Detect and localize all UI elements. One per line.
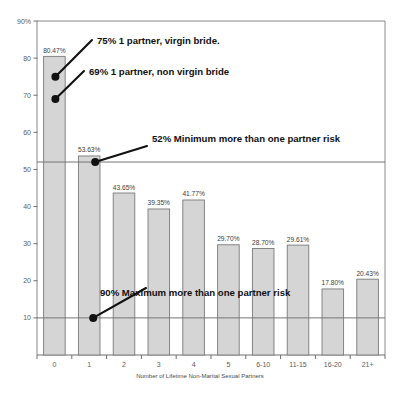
annotation-dot-virgin-bride-marker — [51, 73, 59, 81]
x-tick-label: 0 — [52, 361, 56, 368]
y-tick-label: 10 — [23, 314, 31, 321]
annotation-label-maximum-risk-marker: 90% Maximum more than one partner risk — [100, 287, 291, 298]
x-tick-label: 11-15 — [289, 361, 306, 368]
bar-value-label: 41.77% — [182, 190, 205, 197]
y-tick-label: 30 — [23, 240, 31, 247]
annotation-dot-minimum-risk-marker — [91, 158, 99, 166]
bar — [218, 245, 240, 355]
y-tick-label: 90% — [17, 18, 31, 25]
annotation-label-non-virgin-bride-marker: 69% 1 partner, non virgin bride — [89, 66, 229, 77]
bar-value-label: 20.43% — [356, 270, 379, 277]
y-tick-label: 80 — [23, 55, 31, 62]
y-tick-label: 70 — [23, 92, 31, 99]
bar — [252, 248, 274, 355]
annotation-dot-maximum-risk-marker — [89, 314, 97, 322]
x-tick-label: 6-10 — [256, 361, 270, 368]
bar — [78, 156, 100, 355]
bar-value-label: 43.65% — [113, 184, 136, 191]
bar-value-label: 53.63% — [78, 146, 101, 153]
annotation-label-virgin-bride-marker: 75% 1 partner, virgin bride. — [97, 35, 220, 46]
x-tick-label: 21+ — [362, 361, 374, 368]
bar-value-label: 39.35% — [148, 199, 171, 206]
bar-chart-figure: 90%8070605040302010 0123456-1011-1516-20… — [0, 0, 398, 394]
bar-value-label: 29.70% — [217, 235, 240, 242]
bar-value-label: 29.61% — [287, 236, 310, 243]
bar-value-label: 28.70% — [252, 239, 275, 246]
x-tick-label: 5 — [226, 361, 230, 368]
x-tick-label: 4 — [192, 361, 196, 368]
x-tick-label: 16-20 — [324, 361, 342, 368]
annotation-dot-non-virgin-bride-marker — [51, 95, 59, 103]
x-tick-label: 3 — [157, 361, 161, 368]
y-tick-label: 40 — [23, 203, 31, 210]
y-tick-label: 20 — [23, 277, 31, 284]
bar-value-label: 17.80% — [322, 279, 345, 286]
bar-value-label: 80.47% — [43, 47, 66, 54]
chart-canvas: 90%8070605040302010 0123456-1011-1516-20… — [0, 0, 398, 394]
annotation-label-minimum-risk-marker: 52% Minimum more than one partner risk — [152, 133, 341, 144]
x-tick-label: 1 — [87, 361, 91, 368]
y-tick-label: 50 — [23, 166, 31, 173]
x-axis-title: Number of Lifetime Non-Marital Sexual Pa… — [136, 373, 264, 379]
bar — [322, 289, 344, 355]
bar — [183, 200, 205, 355]
bar — [287, 245, 309, 355]
bar — [148, 209, 170, 355]
bar — [113, 193, 135, 355]
x-tick-label: 2 — [122, 361, 126, 368]
bar — [357, 279, 379, 355]
y-tick-label: 60 — [23, 129, 31, 136]
